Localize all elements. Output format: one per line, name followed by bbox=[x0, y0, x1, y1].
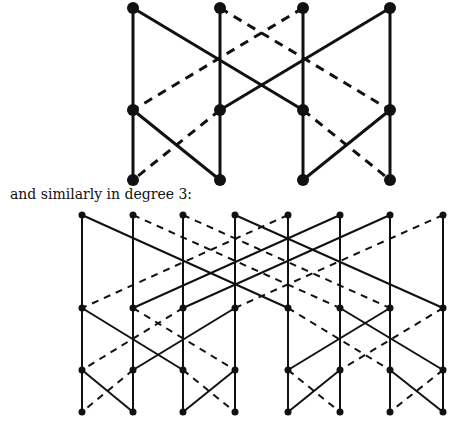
graph-node bbox=[285, 305, 292, 312]
graph-node bbox=[440, 305, 447, 312]
graph-node bbox=[130, 305, 137, 312]
graph-node bbox=[297, 174, 309, 186]
graph-node bbox=[387, 212, 394, 219]
graph-node bbox=[387, 305, 394, 312]
graph-node bbox=[127, 174, 139, 186]
graph-node bbox=[337, 367, 344, 374]
graph-node bbox=[337, 409, 344, 416]
figure-canvas bbox=[0, 0, 464, 421]
graph-node bbox=[232, 212, 239, 219]
graph-node bbox=[130, 367, 137, 374]
graph-node bbox=[214, 2, 226, 14]
graph-node bbox=[232, 367, 239, 374]
graph-node bbox=[285, 409, 292, 416]
graph-node bbox=[130, 409, 137, 416]
graph-node bbox=[180, 212, 187, 219]
graph-node bbox=[79, 305, 86, 312]
graph-node bbox=[440, 212, 447, 219]
solid-edge bbox=[133, 215, 340, 308]
solid-edge bbox=[183, 215, 390, 308]
graph-node bbox=[440, 409, 447, 416]
graph-node bbox=[384, 104, 396, 116]
graph-node bbox=[297, 104, 309, 116]
graph-node bbox=[285, 212, 292, 219]
degree-2-graph bbox=[127, 2, 396, 186]
graph-node bbox=[130, 212, 137, 219]
graph-node bbox=[297, 2, 309, 14]
graph-node bbox=[337, 212, 344, 219]
caption-text: and similarly in degree 3: bbox=[10, 186, 192, 202]
graph-node bbox=[214, 104, 226, 116]
graph-node bbox=[384, 2, 396, 14]
graph-node bbox=[79, 367, 86, 374]
graph-node bbox=[285, 367, 292, 374]
graph-node bbox=[387, 409, 394, 416]
solid-edge bbox=[82, 215, 288, 308]
graph-node bbox=[387, 367, 394, 374]
graph-node bbox=[180, 367, 187, 374]
graph-node bbox=[180, 409, 187, 416]
graph-node bbox=[384, 174, 396, 186]
graph-node bbox=[440, 367, 447, 374]
graph-node bbox=[232, 409, 239, 416]
graph-node bbox=[180, 305, 187, 312]
graph-node bbox=[337, 305, 344, 312]
graph-node bbox=[232, 305, 239, 312]
graph-node bbox=[79, 409, 86, 416]
graph-node bbox=[127, 2, 139, 14]
graph-node bbox=[127, 104, 139, 116]
degree-3-graph bbox=[79, 212, 447, 416]
graph-node bbox=[79, 212, 86, 219]
graph-node bbox=[214, 174, 226, 186]
